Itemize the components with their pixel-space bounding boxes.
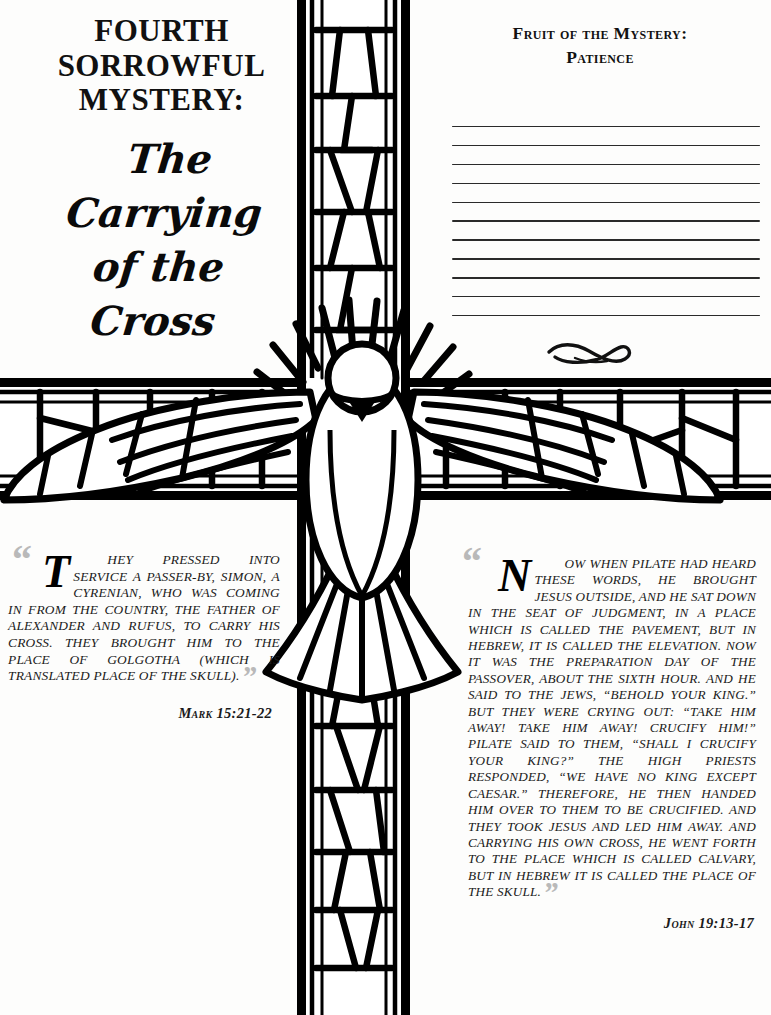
mystery-name-line-2: of the Cross <box>23 240 289 348</box>
scripture-quote-left: “ THEY PRESSED INTO SERVICE A PASSER-BY,… <box>8 552 280 722</box>
scripture-quote-right: “ NOW WHEN PILATE HAD HEARD THESE WORDS,… <box>468 556 756 932</box>
writing-lines-area[interactable] <box>452 120 760 328</box>
writing-line[interactable] <box>452 290 760 309</box>
quote-left-text: THEY PRESSED INTO SERVICE A PASSER-BY, S… <box>8 552 280 685</box>
writing-line[interactable] <box>452 309 760 328</box>
writing-line[interactable] <box>452 271 760 290</box>
flourish-ornament-icon <box>545 337 635 371</box>
devotional-page: FOURTH SORROWFUL MYSTERY: The Carrying o… <box>0 0 771 1015</box>
mystery-name: The Carrying of the Cross <box>23 132 301 348</box>
open-quote-icon: “ <box>12 540 32 580</box>
title-line-1: FOURTH <box>34 14 289 49</box>
writing-line[interactable] <box>452 177 760 196</box>
fruit-heading-line-1: Fruit of the Mystery: <box>440 22 760 46</box>
open-quote-icon: “ <box>462 542 482 582</box>
writing-line[interactable] <box>452 139 760 158</box>
title-line-2: SORROWFUL <box>34 49 289 84</box>
quote-right-text: NOW WHEN PILATE HAD HEARD THESE WORDS, H… <box>468 556 756 901</box>
fruit-heading-line-2: Patience <box>440 46 760 70</box>
quote-right-body: OW WHEN PILATE HAD HEARD THESE WORDS, HE… <box>468 556 756 899</box>
close-quote-icon: ” <box>242 659 257 692</box>
writing-line[interactable] <box>452 252 760 271</box>
writing-line[interactable] <box>452 214 760 233</box>
writing-line[interactable] <box>452 196 760 215</box>
close-quote-icon: ” <box>543 875 558 908</box>
fruit-of-the-mystery-heading: Fruit of the Mystery: Patience <box>440 22 760 69</box>
mystery-name-line-1: The Carrying <box>34 132 300 240</box>
writing-line[interactable] <box>452 158 760 177</box>
title-line-3: MYSTERY: <box>34 83 289 118</box>
page-title: FOURTH SORROWFUL MYSTERY: The Carrying o… <box>34 14 289 348</box>
writing-line[interactable] <box>452 233 760 252</box>
writing-line[interactable] <box>452 120 760 139</box>
quote-right-citation: John 19:13-17 <box>468 915 756 932</box>
quote-left-citation: Mark 15:21-22 <box>8 705 280 722</box>
